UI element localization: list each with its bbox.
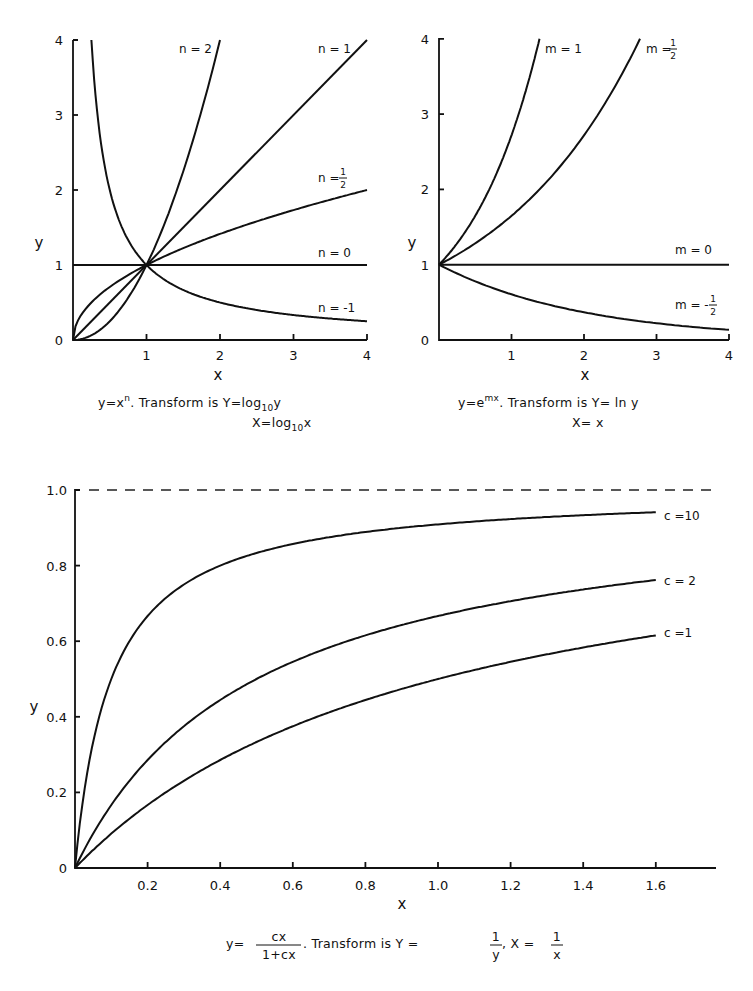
label-m-half: m = xyxy=(646,42,672,56)
curve-c-2 xyxy=(75,580,656,868)
y-tick-label: 0 xyxy=(55,333,63,348)
y-tick-label: 1 xyxy=(55,258,63,273)
y-tick-label: 3 xyxy=(421,107,429,122)
x-axis-label: x xyxy=(214,366,223,384)
y-tick-label: 0 xyxy=(59,861,67,876)
y-tick-label: 2 xyxy=(55,183,63,198)
x-tick-label: 4 xyxy=(725,348,733,363)
x-tick-label: 1.4 xyxy=(573,878,594,893)
x-tick-label: 1.6 xyxy=(645,878,666,893)
x-tick-label: 3 xyxy=(289,348,297,363)
fraction-numerator: 1 xyxy=(340,167,346,177)
label-m-minus-half-fraction: 12 xyxy=(709,294,717,317)
label-c-10: c =10 xyxy=(664,509,700,523)
x-tick-label: 1 xyxy=(507,348,515,363)
x-tick-label: 0.8 xyxy=(355,878,376,893)
x-tick-label: 1.2 xyxy=(500,878,521,893)
y-tick-label: 3 xyxy=(55,108,63,123)
x-tick-label: 0.2 xyxy=(137,878,158,893)
y-tick-label: 2 xyxy=(421,182,429,197)
x-axis-label: x xyxy=(398,895,407,913)
x-tick-label: 2 xyxy=(580,348,588,363)
y-tick-label: 0.8 xyxy=(46,559,67,574)
label-c-1: c =1 xyxy=(664,626,692,640)
x-tick-label: 1 xyxy=(142,348,150,363)
fraction-denominator: 2 xyxy=(340,180,346,190)
caption-f1-den: y xyxy=(492,947,500,962)
label-m-minus-half: m = - xyxy=(675,298,709,312)
axes xyxy=(439,39,729,340)
exponential-chart: 012341234yxm = 1m =12m = 0m = -12y=emx. … xyxy=(408,32,734,430)
label-n-half: n = xyxy=(318,171,339,185)
fraction-numerator: 1 xyxy=(670,38,676,48)
power-law-chart: 012341234yxn = 2n = 1n =12n = 0n = -1y=x… xyxy=(35,33,372,433)
y-axis-label: y xyxy=(30,698,39,716)
axes xyxy=(75,490,716,868)
curve-c-1 xyxy=(75,635,656,868)
y-tick-label: 1 xyxy=(421,258,429,273)
y-tick-label: 0.4 xyxy=(46,710,67,725)
caption-power-line2: X=log10x xyxy=(252,415,311,433)
caption-numerator: cx xyxy=(272,929,287,944)
y-tick-label: 0 xyxy=(421,333,429,348)
label-c-2: c = 2 xyxy=(664,574,696,588)
figure-canvas: 012341234yxn = 2n = 1n =12n = 0n = -1y=x… xyxy=(0,0,753,991)
x-tick-label: 2 xyxy=(216,348,224,363)
curve-m-half xyxy=(439,39,640,265)
y-tick-label: 0.2 xyxy=(46,785,67,800)
label-n-1: n = 1 xyxy=(318,42,351,56)
x-tick-label: 4 xyxy=(363,348,371,363)
caption-mid: . Transform is Y = xyxy=(303,936,419,951)
caption-f1-num: 1 xyxy=(492,929,500,944)
x-tick-label: 1.0 xyxy=(428,878,449,893)
x-axis-label: x xyxy=(581,366,590,384)
y-tick-label: 0.6 xyxy=(46,634,67,649)
curve-m-1 xyxy=(439,39,540,265)
label-n-half-fraction: 12 xyxy=(339,167,347,190)
label-m-1: m = 1 xyxy=(545,42,582,56)
label-n-minus-1: n = -1 xyxy=(318,301,355,315)
caption-f2-den: x xyxy=(553,947,561,962)
y-axis-label: y xyxy=(408,234,417,252)
caption-denominator: 1+cx xyxy=(262,947,296,962)
caption-exp-line2: X= x xyxy=(572,415,604,430)
x-tick-label: 0.6 xyxy=(282,878,303,893)
fraction-denominator: 2 xyxy=(710,307,716,317)
x-tick-label: 0.4 xyxy=(210,878,231,893)
label-n-2: n = 2 xyxy=(179,42,212,56)
y-axis-label: y xyxy=(35,234,44,252)
x-tick-label: 3 xyxy=(652,348,660,363)
caption-sep: , X = xyxy=(502,936,534,951)
curve-c-10 xyxy=(75,512,656,868)
label-n-0: n = 0 xyxy=(318,246,351,260)
caption-power-line1: y=xn. Transform is Y=log10y xyxy=(98,393,281,413)
caption-hyperbolic: y=cx1+cx. Transform is Y =1y, X =1x xyxy=(226,929,563,962)
caption-exp-line1: y=emx. Transform is Y= ln y xyxy=(458,393,639,410)
y-tick-label: 4 xyxy=(421,32,429,47)
caption-lhs: y= xyxy=(226,936,244,951)
y-tick-label: 1.0 xyxy=(46,483,67,498)
label-m-0: m = 0 xyxy=(675,243,712,257)
y-tick-label: 4 xyxy=(55,33,63,48)
fraction-denominator: 2 xyxy=(670,51,676,61)
label-m-half-fraction: 12 xyxy=(669,38,677,61)
curve-n-1 xyxy=(73,40,367,340)
hyperbolic-chart: 00.20.40.60.81.00.20.40.60.81.01.21.41.6… xyxy=(30,483,716,962)
caption-f2-num: 1 xyxy=(553,929,561,944)
fraction-numerator: 1 xyxy=(710,294,716,304)
